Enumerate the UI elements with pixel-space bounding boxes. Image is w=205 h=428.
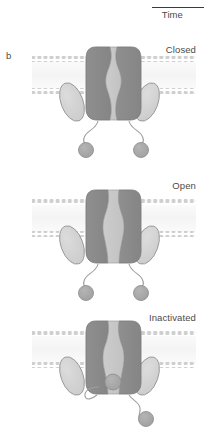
inactivation-ball-left-open <box>79 286 94 301</box>
inactivation-ball-right-inactivated <box>139 412 154 427</box>
inactivation-ball-right-closed <box>134 143 149 158</box>
channel-state-open <box>32 190 196 301</box>
inactivation-ball-right-open <box>134 286 149 301</box>
inactivation-chain-right-inactivated <box>129 395 140 420</box>
channel-state-closed <box>32 47 196 158</box>
channel-diagram-svg <box>0 0 205 428</box>
inactivation-ball-left-closed <box>79 143 94 158</box>
ion-channel-gating-figure: Time b Closed Open Inactivated α β <box>0 0 205 428</box>
channel-state-inactivated <box>32 321 196 427</box>
inactivation-ball-plugging-pore <box>105 374 121 390</box>
